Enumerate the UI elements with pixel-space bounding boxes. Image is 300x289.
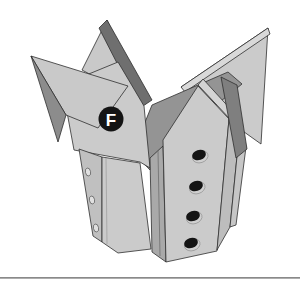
birdhouse-assembly-figure: F — [0, 0, 300, 289]
illustration-canvas: F — [0, 0, 300, 289]
ground-line — [0, 277, 300, 279]
left-front-wall — [102, 157, 151, 253]
part-label-badge: F — [99, 107, 124, 132]
badge-letter: F — [106, 111, 116, 130]
